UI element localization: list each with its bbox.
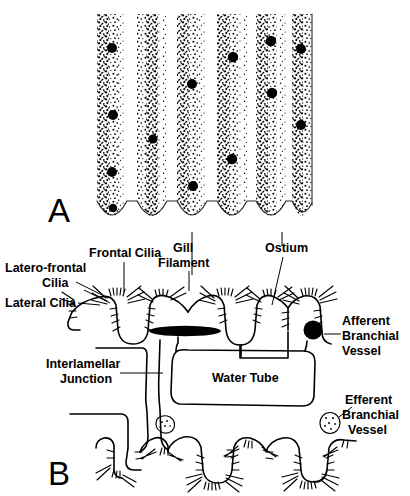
ostium-label: Ostium (265, 241, 308, 255)
ostium-dot (148, 134, 157, 143)
frontal-cilia-label: Frontal Cilia (89, 246, 162, 260)
ostium-dot (107, 43, 117, 53)
ostium-dot (107, 167, 117, 177)
filament-column-4 (215, 12, 249, 234)
lateral-cilia-label: Lateral Cilia (5, 296, 77, 310)
figure-canvas: A Frontal Cilia Latero-frontal Cilia Lat… (0, 0, 410, 496)
latero-frontal-cilia-label-line1: Latero-frontal (5, 261, 86, 275)
afferent-label-line3: Vessel (342, 344, 381, 358)
ostium-dot (109, 204, 117, 212)
ostium-dot (228, 52, 238, 62)
ostium-dot (267, 88, 277, 98)
afferent-label-line2: Branchial (342, 329, 399, 343)
efferent-label-line1: Efferent (345, 393, 393, 407)
interlamellar-label-line1: Interlamellar (46, 357, 120, 371)
ostium-dot (108, 110, 118, 120)
panel-b-letter: B (48, 455, 70, 492)
ostium-dot (187, 79, 197, 89)
gill-structure-figure: A Frontal Cilia Latero-frontal Cilia Lat… (0, 0, 410, 496)
latero-frontal-cilia-label-line2: Cilia (42, 276, 69, 290)
interlamellar-label-line2: Junction (60, 372, 112, 386)
afferent-branchial-vessel-dot (304, 321, 323, 340)
panel-a-letter: A (48, 192, 70, 229)
ostium-dot (266, 36, 276, 46)
ostium-dot (227, 154, 237, 164)
efferent-label-line2: Branchial (342, 408, 399, 422)
filament-column-3 (175, 12, 209, 234)
dark-lens-vessel (149, 326, 221, 336)
filament-column-2 (135, 12, 169, 234)
ostium-dot (296, 120, 306, 130)
gill-filament-label-line1: Gill (173, 241, 193, 255)
water-tube-label: Water Tube (212, 371, 279, 385)
afferent-label-line1: Afferent (342, 314, 391, 328)
ostium-dot (296, 44, 306, 54)
efferent-label-line3: Vessel (348, 423, 387, 437)
ostium-dot (188, 181, 198, 191)
gill-filament-label-line2: Filament (158, 256, 210, 270)
